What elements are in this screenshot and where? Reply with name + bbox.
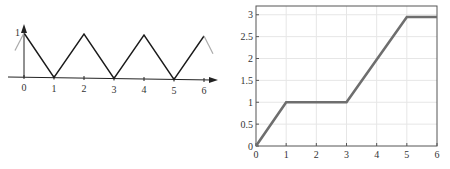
x-tick-label: 6 (202, 85, 207, 96)
x-axis (8, 77, 212, 80)
x-tick-label: 0 (22, 82, 27, 93)
x-tick-label: 2 (82, 83, 87, 94)
x-tick-label: 1 (52, 83, 57, 94)
x-tick-label: 3 (344, 149, 349, 160)
x-axis-arrow-icon (209, 77, 218, 83)
y-axis-arrow-icon (21, 24, 27, 33)
x-tick-label: 2 (314, 149, 319, 160)
x-tick-label: 5 (404, 149, 409, 160)
y-tick-label: 2 (248, 53, 253, 64)
x-tick-label: 1 (284, 149, 289, 160)
x-tick-label: 3 (112, 84, 117, 95)
y-tick-label: 0 (248, 141, 253, 152)
x-tick-label: 5 (172, 85, 177, 96)
y-tick-label: 0.5 (241, 119, 254, 130)
y-tick-label: 2.5 (241, 31, 254, 42)
figure: 01234561 012345600.511.522.53 (0, 0, 450, 169)
y-tick-label: 1.5 (241, 75, 254, 86)
y-tick-label: 1 (248, 97, 253, 108)
triangle-wave-chart: 01234561 (8, 24, 218, 96)
x-tick-label: 4 (374, 149, 379, 160)
y-tick-label: 3 (248, 9, 253, 20)
x-tick-label: 4 (142, 84, 147, 95)
x-tick-label: 6 (435, 149, 440, 160)
series-extension-right (204, 36, 213, 54)
y-tick-label: 1 (15, 27, 20, 38)
cumulative-line-chart: 012345600.511.522.53 (241, 6, 440, 160)
x-tick-label: 0 (254, 149, 259, 160)
series-main (24, 33, 204, 80)
